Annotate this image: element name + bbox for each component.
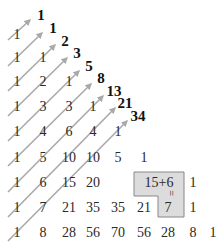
triangle-cell: 6: [66, 125, 73, 139]
triangle-cell: 3: [40, 100, 47, 114]
triangle-cell: 1: [66, 75, 73, 89]
fibonacci-number: 34: [131, 109, 146, 124]
triangle-cell: 1: [14, 151, 21, 165]
triangle-cell: 20: [86, 176, 100, 190]
fibonacci-number: 2: [61, 34, 69, 49]
fibonacci-number: 8: [97, 71, 105, 86]
triangle-cell: 2: [40, 75, 47, 89]
triangle-cell: 21: [137, 201, 151, 215]
triangle-cell: 8: [190, 226, 197, 240]
triangle-cell: 1: [141, 151, 148, 165]
triangle-cell: 7: [40, 201, 47, 215]
triangle-cell: 5: [115, 151, 122, 165]
triangle-cell: 1: [190, 201, 197, 215]
fibonacci-number: 1: [37, 8, 45, 23]
triangle-cell: 3: [66, 100, 73, 114]
triangle-cell: 15+6: [145, 176, 174, 190]
triangle-cell: 28: [161, 226, 175, 240]
triangle-cell: 1: [190, 176, 197, 190]
triangle-cell: 28: [62, 226, 76, 240]
triangle-cell: 1: [14, 75, 21, 89]
triangle-cell: 6: [40, 176, 47, 190]
triangle-cell: 70: [111, 226, 125, 240]
triangle-cell: 35: [86, 201, 100, 215]
triangle-cell: 1: [14, 51, 21, 65]
triangle-cell: 56: [137, 226, 151, 240]
triangle-cell: 15: [62, 176, 76, 190]
triangle-cell: 10: [62, 151, 76, 165]
fibonacci-number: 1: [49, 21, 57, 36]
triangle-cell: 1: [115, 125, 122, 139]
triangle-cell: 4: [40, 125, 47, 139]
triangle-cell: 1: [40, 51, 47, 65]
triangle-cell: 10: [86, 151, 100, 165]
triangle-cell: 7: [165, 201, 172, 215]
triangle-cell: 1: [90, 100, 97, 114]
triangle-cell: 8: [40, 226, 47, 240]
fibonacci-number: 5: [85, 59, 93, 74]
triangle-cell: 56: [86, 226, 100, 240]
triangle-cell: 1: [14, 100, 21, 114]
triangle-cell: 4: [90, 125, 97, 139]
triangle-cell: 1: [14, 176, 21, 190]
triangle-cell: 1: [14, 28, 21, 42]
triangle-cell: 1: [14, 125, 21, 139]
triangle-cell: 35: [111, 201, 125, 215]
triangle-cell: 5: [40, 151, 47, 165]
triangle-cell: 21: [62, 201, 76, 215]
triangle-cell: 1: [14, 201, 21, 215]
triangle-cell: 1: [14, 226, 21, 240]
triangle-cell: 1: [210, 226, 217, 240]
equals-sign: =: [166, 190, 176, 196]
fibonacci-number: 3: [73, 46, 81, 61]
